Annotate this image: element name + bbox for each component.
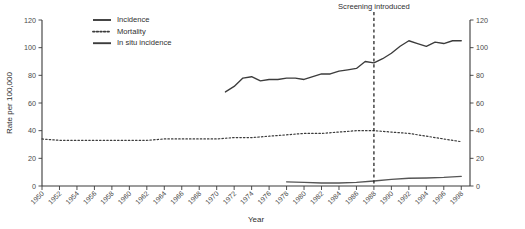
legend-label-1: Incidence bbox=[117, 15, 150, 24]
y-axis-left-tick-label: 80 bbox=[28, 71, 36, 80]
x-axis-tick-label: 1960 bbox=[117, 190, 133, 206]
y-axis-left-tick-label: 40 bbox=[28, 126, 36, 135]
x-axis-tick-label: 1968 bbox=[186, 190, 202, 206]
x-axis-tick-label: 1956 bbox=[82, 190, 98, 206]
y-axis-right-tick-label: 40 bbox=[476, 126, 484, 135]
y-axis-left: 020406080100120 bbox=[24, 16, 42, 191]
x-axis-tick-label: 1954 bbox=[64, 190, 80, 206]
y-axis-left-tick-label: 0 bbox=[32, 182, 36, 191]
y-axis-right-tick-label: 20 bbox=[476, 154, 484, 163]
x-axis-title: Year bbox=[248, 215, 265, 224]
x-axis-tick-label: 1992 bbox=[396, 190, 412, 206]
series-line-mortality bbox=[42, 131, 461, 142]
x-axis-tick-label: 1986 bbox=[344, 190, 360, 206]
x-axis-tick-label: 1962 bbox=[134, 190, 150, 206]
x-axis-tick-label: 1988 bbox=[361, 190, 377, 206]
x-axis-tick-label: 1966 bbox=[169, 190, 185, 206]
y-axis-right-tick-label: 0 bbox=[476, 182, 480, 191]
x-axis-tick-label: 1958 bbox=[99, 190, 115, 206]
y-axis-title: Rate per 100,000 bbox=[5, 72, 14, 134]
y-axis-left-tick-label: 20 bbox=[28, 154, 36, 163]
x-axis-tick-label: 1972 bbox=[221, 190, 237, 206]
y-axis-right-tick-label: 60 bbox=[476, 99, 484, 108]
chart-figure: 0204060801001200204060801001201950195219… bbox=[0, 0, 525, 229]
x-axis-tick-label: 1978 bbox=[274, 190, 290, 206]
legend-label-2: Mortality bbox=[117, 27, 146, 36]
x-axis-tick-label: 1974 bbox=[239, 190, 255, 206]
y-axis-left-tick-label: 60 bbox=[28, 99, 36, 108]
chart-legend: IncidenceMortalityIn situ incidence bbox=[93, 15, 171, 47]
x-axis-tick-label: 1996 bbox=[431, 190, 447, 206]
x-axis-tick-label: 1982 bbox=[309, 190, 325, 206]
series-line-incidence bbox=[225, 41, 461, 92]
x-axis-tick-label: 1984 bbox=[326, 190, 342, 206]
y-axis-left-tick-label: 100 bbox=[24, 43, 36, 52]
x-axis-tick-label: 1964 bbox=[152, 190, 168, 206]
x-axis-tick-label: 1950 bbox=[29, 190, 45, 206]
y-axis-left-tick-label: 120 bbox=[24, 16, 36, 25]
x-axis-tick-label: 1970 bbox=[204, 190, 220, 206]
x-axis-tick-label: 1952 bbox=[47, 190, 63, 206]
x-axis: 1950195219541956195819601962196419661968… bbox=[29, 186, 470, 206]
y-axis-right-tick-label: 100 bbox=[476, 43, 488, 52]
x-axis-tick-label: 1990 bbox=[379, 190, 395, 206]
x-axis-tick-label: 1980 bbox=[291, 190, 307, 206]
y-axis-right: 020406080100120 bbox=[470, 16, 488, 191]
chart-svg: 0204060801001200204060801001201950195219… bbox=[0, 0, 525, 229]
y-axis-right-tick-label: 120 bbox=[476, 16, 488, 25]
x-axis-tick-label: 1998 bbox=[449, 190, 465, 206]
legend-label-3: In situ incidence bbox=[117, 38, 171, 47]
x-axis-tick-label: 1976 bbox=[256, 190, 272, 206]
x-axis-tick-label: 1994 bbox=[414, 190, 430, 206]
y-axis-right-tick-label: 80 bbox=[476, 71, 484, 80]
screening-introduced-label: Screening introduced bbox=[338, 2, 410, 11]
